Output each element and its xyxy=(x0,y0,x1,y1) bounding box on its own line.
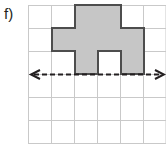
figure-canvas: f) xyxy=(0,0,166,157)
shaded-plus-figure xyxy=(52,5,144,74)
grid-figure-svg xyxy=(0,0,166,157)
